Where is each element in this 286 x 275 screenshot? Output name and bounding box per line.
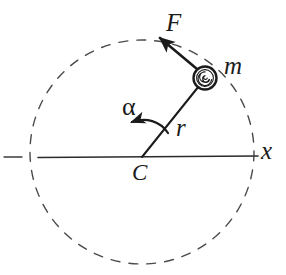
- diagram-vector-layer: [0, 0, 286, 275]
- angle-label: α: [122, 94, 136, 120]
- mass-label: m: [224, 53, 242, 78]
- dashed-circle-path-icon: [30, 40, 254, 264]
- physics-diagram-canvas: F m r α C x: [0, 0, 286, 275]
- center-label: C: [132, 161, 147, 184]
- radius-label: r: [176, 115, 186, 140]
- axis-label: x: [261, 138, 272, 163]
- horizontal-axis-line-icon: [38, 156, 258, 158]
- force-label: F: [166, 10, 181, 35]
- force-vector-arrow-icon: [160, 38, 197, 69]
- spiral-ball-icon: [194, 67, 217, 90]
